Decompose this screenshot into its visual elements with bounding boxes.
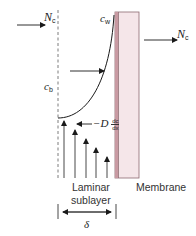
flux-out-label: Nc xyxy=(177,27,189,42)
membrane xyxy=(115,12,139,178)
wall-concentration-label: cw xyxy=(100,12,110,25)
thickness-label: δ xyxy=(84,218,89,230)
back-diffusion-label: −D dcdx xyxy=(93,117,119,131)
flux-in-label: Nc xyxy=(44,10,56,25)
laminar-sublayer-label: Laminar sublayer xyxy=(71,181,111,207)
bulk-concentration-label: cb xyxy=(44,80,53,93)
membrane-label: Membrane xyxy=(136,181,186,193)
concentration-profile-curve xyxy=(58,15,114,118)
